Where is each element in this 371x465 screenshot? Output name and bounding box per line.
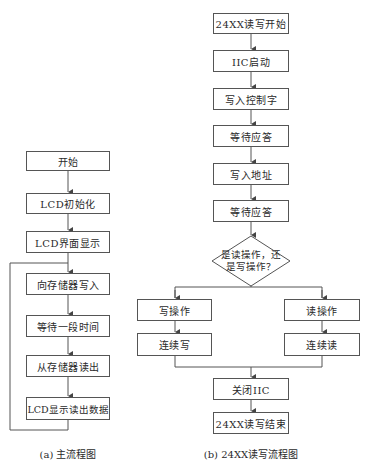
step-lcd-ui-display: LCD界面显示 [26, 231, 110, 253]
step-read-memory: 从存储器读出 [26, 355, 110, 377]
step-write-memory: 向存储器写入 [26, 273, 110, 295]
step-rw-start: 24XX读写开始 [213, 13, 289, 34]
decision-read-or-write: 是读操作，还 是写操作？ [216, 249, 286, 273]
step-iic-start: IIC启动 [213, 50, 289, 72]
step-close-iic: 关闭IIC [213, 378, 289, 400]
step-wait-ack-1: 等待应答 [213, 125, 289, 147]
step-write-address: 写入地址 [213, 163, 289, 185]
step-continuous-read: 连续读 [284, 333, 360, 356]
step-wait: 等待一段时间 [26, 315, 110, 337]
step-write-control-byte: 写入控制字 [213, 88, 289, 110]
step-wait-ack-2: 等待应答 [213, 200, 289, 222]
caption-main-flow: (a) 主流程图 [18, 446, 118, 461]
step-rw-end: 24XX读写结束 [213, 412, 289, 434]
step-start: 开始 [26, 151, 110, 171]
step-lcd-show-data: LCD显示读出数据 [26, 397, 110, 420]
step-read-op: 读操作 [284, 299, 360, 321]
step-lcd-init: LCD初始化 [26, 193, 110, 214]
step-write-op: 写操作 [137, 299, 212, 321]
caption-rw-flow: (b) 24XX读写流程图 [196, 446, 306, 461]
step-continuous-write: 连续写 [137, 333, 212, 356]
